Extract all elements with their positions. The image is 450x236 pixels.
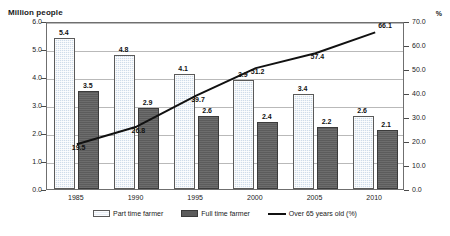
y-axis-right-tick-mark xyxy=(404,190,409,191)
chart-legend: Part time farmer Full time farmer Over 6… xyxy=(0,210,450,217)
bar-label-part-time-farmer: 2.6 xyxy=(346,107,379,114)
y-axis-right-tick-mark xyxy=(404,94,409,95)
legend-label-full-time-farmer: Full time farmer xyxy=(201,210,250,217)
y-axis-left-tick-label: 1.0 xyxy=(2,158,42,166)
bar-label-part-time-farmer: 3.4 xyxy=(286,85,319,92)
y-axis-right-tick-label: 60.0 xyxy=(412,42,450,50)
y-axis-left-tick-mark xyxy=(41,50,46,51)
y-axis-right-tick-label: 10.0 xyxy=(412,162,450,170)
y-axis-right-tick-mark xyxy=(404,22,409,23)
line-data-label: 26.8 xyxy=(132,127,146,134)
part-time-farmer-swatch-icon xyxy=(93,210,110,217)
bar-label-full-time-farmer: 2.2 xyxy=(310,118,343,125)
y-axis-right-tick-mark xyxy=(404,70,409,71)
y-axis-left-tick-mark xyxy=(41,22,46,23)
y-axis-title-left: Million people xyxy=(8,8,63,17)
y-axis-left-tick-mark xyxy=(41,190,46,191)
bar-label-full-time-farmer: 2.1 xyxy=(370,121,403,128)
y-axis-left-tick-mark xyxy=(41,78,46,79)
line-data-label: 57.4 xyxy=(311,53,325,60)
bar-label-part-time-farmer: 4.8 xyxy=(107,46,140,53)
x-axis-tick-label: 1995 xyxy=(175,194,215,201)
chart-container: Million people % 0.01.02.03.04.05.06.0 0… xyxy=(0,0,450,236)
y-axis-right-tick-mark xyxy=(404,166,409,167)
over-65-line-swatch-icon xyxy=(268,213,286,215)
y-axis-right-tick-label: 20.0 xyxy=(412,138,450,146)
y-axis-right-tick-label: 0.0 xyxy=(412,186,450,194)
bar-label-full-time-farmer: 2.9 xyxy=(131,99,164,106)
full-time-farmer-swatch-icon xyxy=(181,210,198,217)
y-axis-left-tick-label: 4.0 xyxy=(2,74,42,82)
bar-label-part-time-farmer: 5.4 xyxy=(47,29,80,36)
y-axis-left-tick-label: 5.0 xyxy=(2,46,42,54)
x-axis-tick-label: 2010 xyxy=(354,194,394,201)
y-axis-left-tick-label: 3.0 xyxy=(2,102,42,110)
y-axis-right-tick-mark xyxy=(404,118,409,119)
x-axis-tick-label: 2000 xyxy=(235,194,275,201)
bar-label-full-time-farmer: 3.5 xyxy=(71,82,104,89)
bar-label-full-time-farmer: 2.4 xyxy=(250,113,283,120)
x-axis-tick-label: 1985 xyxy=(56,194,96,201)
x-axis-tick-label: 2005 xyxy=(295,194,335,201)
y-axis-left-tick-label: 6.0 xyxy=(2,18,42,26)
legend-label-part-time-farmer: Part time farmer xyxy=(113,210,163,217)
line-data-label: 39.7 xyxy=(191,96,205,103)
y-axis-left-tick-label: 0.0 xyxy=(2,186,42,194)
legend-item-over-65[interactable]: Over 65 years old (%) xyxy=(268,210,357,217)
line-data-label: 66.1 xyxy=(378,22,392,29)
line-data-label: 51.2 xyxy=(251,68,265,75)
y-axis-left-tick-mark xyxy=(41,106,46,107)
x-axis-tick-label: 1990 xyxy=(116,194,156,201)
y-axis-right-tick-label: 30.0 xyxy=(412,114,450,122)
y-axis-right-tick-mark xyxy=(404,46,409,47)
y-axis-left-tick-mark xyxy=(41,134,46,135)
legend-item-part-time-farmer[interactable]: Part time farmer xyxy=(93,210,163,217)
y-axis-right-tick-label: 40.0 xyxy=(412,90,450,98)
y-axis-left-tick-label: 2.0 xyxy=(2,130,42,138)
plot-area xyxy=(46,22,404,190)
bar-label-full-time-farmer: 2.6 xyxy=(191,107,224,114)
line-data-label: 19.5 xyxy=(72,144,86,151)
y-axis-right-tick-label: 50.0 xyxy=(412,66,450,74)
y-axis-right-tick-label: 70.0 xyxy=(412,18,450,26)
y-axis-left-tick-mark xyxy=(41,162,46,163)
bar-label-part-time-farmer: 4.1 xyxy=(167,65,200,72)
y-axis-title-right: % xyxy=(436,10,442,17)
y-axis-right-tick-mark xyxy=(404,142,409,143)
legend-item-full-time-farmer[interactable]: Full time farmer xyxy=(181,210,250,217)
legend-label-over-65: Over 65 years old (%) xyxy=(289,210,357,217)
